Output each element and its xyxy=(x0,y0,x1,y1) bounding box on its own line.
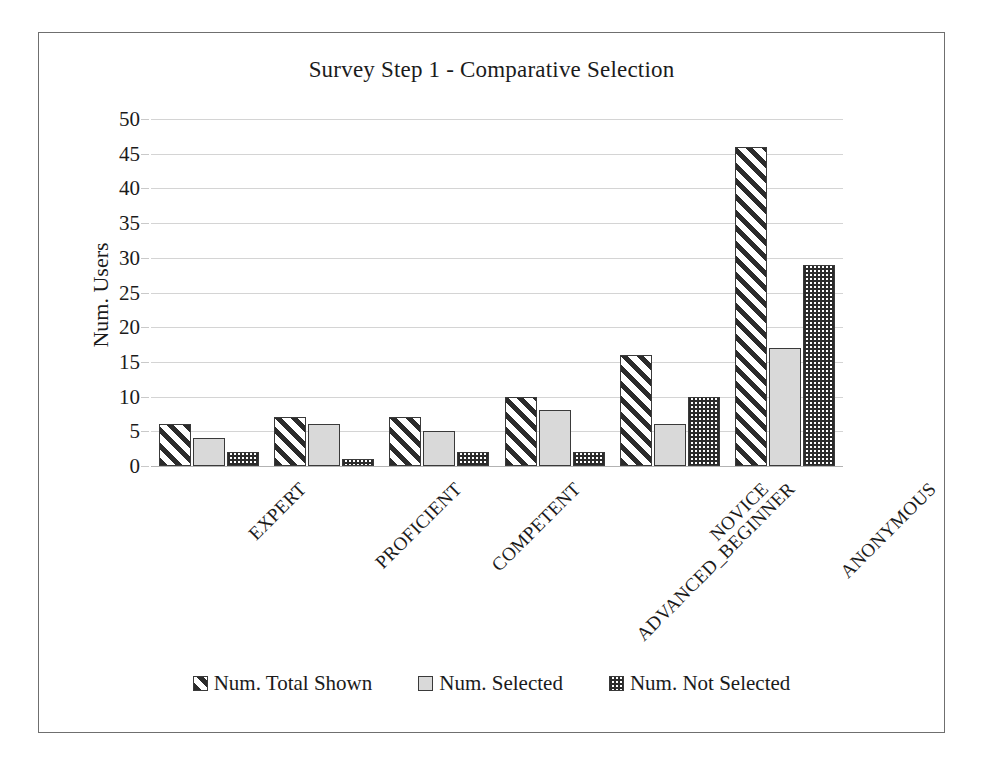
bar xyxy=(769,348,801,466)
x-axis-label: EXPERT xyxy=(244,478,311,545)
bar-group xyxy=(159,119,259,466)
y-axis-tick-label: 15 xyxy=(119,351,140,372)
y-axis-tick-mark xyxy=(141,223,149,224)
bar xyxy=(688,397,720,466)
bar xyxy=(505,397,537,466)
y-axis-tick-mark xyxy=(141,293,149,294)
y-axis-tick-mark xyxy=(141,154,149,155)
y-axis-tick-mark xyxy=(141,397,149,398)
y-axis-tick-mark xyxy=(141,362,149,363)
x-axis-label: PROFICIENT xyxy=(371,478,466,573)
bar xyxy=(803,265,835,466)
y-axis-tick-label: 20 xyxy=(119,317,140,338)
bar xyxy=(539,410,571,466)
legend-swatch-icon xyxy=(609,676,624,691)
y-axis-tick-label: 0 xyxy=(130,456,141,477)
bar xyxy=(654,424,686,466)
y-axis-tick-mark xyxy=(141,466,149,467)
legend-swatch-icon xyxy=(193,676,208,691)
bar-group xyxy=(735,119,835,466)
bar xyxy=(308,424,340,466)
bar-group xyxy=(274,119,374,466)
y-axis-tick-mark xyxy=(141,188,149,189)
figure-frame: Survey Step 1 - Comparative Selection Nu… xyxy=(38,32,945,733)
x-axis-label: COMPETENT xyxy=(488,478,586,576)
y-axis-tick-label: 45 xyxy=(119,143,140,164)
y-axis-tick-label: 40 xyxy=(119,178,140,199)
bar-group xyxy=(620,119,720,466)
y-axis-tick-label: 5 xyxy=(130,421,141,442)
y-axis-tick-mark xyxy=(141,258,149,259)
plot-area: 05101520253035404550 EXPERTPROFICIENTCOM… xyxy=(151,119,843,466)
y-axis-tick-label: 25 xyxy=(119,282,140,303)
y-axis-tick-label: 30 xyxy=(119,247,140,268)
bar xyxy=(389,417,421,466)
y-axis-tick-label: 50 xyxy=(119,109,140,130)
legend-label: Num. Not Selected xyxy=(630,671,790,696)
legend-label: Num. Selected xyxy=(439,671,563,696)
bar xyxy=(193,438,225,466)
chart-title: Survey Step 1 - Comparative Selection xyxy=(39,57,944,83)
y-axis-tick-mark xyxy=(141,431,149,432)
chart-legend: Num. Total ShownNum. SelectedNum. Not Se… xyxy=(39,671,944,696)
bar xyxy=(159,424,191,466)
bar xyxy=(342,459,374,466)
legend-item[interactable]: Num. Not Selected xyxy=(609,671,790,696)
y-axis-tick-label: 10 xyxy=(119,386,140,407)
legend-label: Num. Total Shown xyxy=(214,671,373,696)
x-axis-label: ANONYMOUS xyxy=(836,478,941,583)
bar xyxy=(423,431,455,466)
bar xyxy=(573,452,605,466)
bar xyxy=(227,452,259,466)
y-axis-tick-mark xyxy=(141,119,149,120)
legend-item[interactable]: Num. Selected xyxy=(418,671,563,696)
y-axis-tick-mark xyxy=(141,327,149,328)
y-axis-title: Num. Users xyxy=(88,242,114,347)
legend-item[interactable]: Num. Total Shown xyxy=(193,671,373,696)
bar xyxy=(457,452,489,466)
bar xyxy=(274,417,306,466)
bar-group xyxy=(389,119,489,466)
bar xyxy=(735,147,767,466)
y-axis-tick-label: 35 xyxy=(119,213,140,234)
x-axis-label: ADVANCED_BEGINNER xyxy=(632,478,799,645)
bar xyxy=(620,355,652,466)
gridline xyxy=(151,466,843,467)
bar-group xyxy=(505,119,605,466)
legend-swatch-icon xyxy=(418,676,433,691)
